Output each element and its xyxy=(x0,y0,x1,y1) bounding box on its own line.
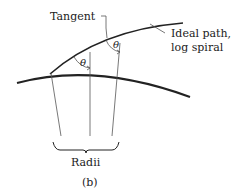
radii-brace xyxy=(53,142,119,153)
ideal-path-label-line1: Ideal path, xyxy=(171,27,231,40)
log-spiral-diagram: Tangent Ideal path, log spiral θ θ Radii… xyxy=(0,0,238,194)
caption-label: (b) xyxy=(82,176,98,189)
theta-label-2: θ xyxy=(113,39,119,50)
ideal-path-label-line2: log spiral xyxy=(171,41,224,54)
tangent-leader xyxy=(101,16,107,38)
tangent-label: Tangent xyxy=(50,10,96,23)
theta-label-1: θ xyxy=(80,57,86,68)
radii-label: Radii xyxy=(71,156,101,169)
radius-line-3 xyxy=(112,43,120,136)
radius-line-1 xyxy=(51,73,61,136)
lower-arc xyxy=(17,75,190,97)
